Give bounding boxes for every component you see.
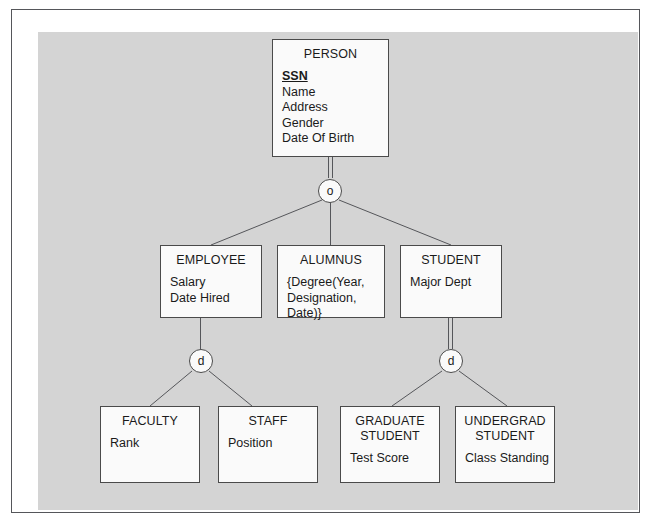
- entity-graduate-student-title: GRADUATE STUDENT: [341, 414, 439, 444]
- specialization-symbol-o: o: [327, 184, 334, 198]
- attribute-degree-line-1: {Degree(Year,: [287, 275, 384, 291]
- entity-alumnus-attributes: {Degree(Year, Designation, Date)}: [278, 275, 384, 322]
- attribute-rank: Rank: [110, 436, 199, 452]
- attribute-salary: Salary: [170, 275, 261, 291]
- entity-student-attributes: Major Dept: [401, 275, 501, 291]
- entity-graduate-student-attributes: Test Score: [341, 451, 439, 467]
- entity-student-title: STUDENT: [401, 253, 501, 268]
- entity-employee-attributes: Salary Date Hired: [161, 275, 261, 306]
- entity-undergrad-student-title: UNDERGRAD STUDENT: [456, 414, 554, 444]
- entity-undergrad-student[interactable]: UNDERGRAD STUDENT Class Standing: [455, 406, 555, 483]
- attribute-gender: Gender: [282, 116, 388, 132]
- entity-student[interactable]: STUDENT Major Dept: [400, 245, 502, 318]
- entity-person-attributes: SSN Name Address Gender Date Of Birth: [273, 69, 388, 147]
- entity-faculty[interactable]: FACULTY Rank: [100, 406, 200, 483]
- edge-spec-to-student: [339, 200, 451, 245]
- entity-alumnus-title: ALUMNUS: [278, 253, 384, 268]
- entity-staff-title: STAFF: [219, 414, 317, 429]
- attribute-degree-line-2: Designation,: [287, 291, 384, 307]
- diagram-page: PERSON SSN Name Address Gender Date Of B…: [0, 0, 652, 525]
- entity-person[interactable]: PERSON SSN Name Address Gender Date Of B…: [272, 39, 389, 157]
- edge-spec-to-employee: [211, 200, 322, 245]
- entity-graduate-student[interactable]: GRADUATE STUDENT Test Score: [340, 406, 440, 483]
- specialization-symbol-d-student: d: [448, 354, 455, 368]
- attribute-class-standing: Class Standing: [465, 451, 554, 467]
- attribute-ssn: SSN: [282, 69, 388, 85]
- attribute-name: Name: [282, 85, 388, 101]
- entity-employee[interactable]: EMPLOYEE Salary Date Hired: [160, 245, 262, 318]
- entity-undergrad-student-attributes: Class Standing: [456, 451, 554, 467]
- entity-alumnus[interactable]: ALUMNUS {Degree(Year, Designation, Date)…: [277, 245, 385, 318]
- entity-person-title: PERSON: [273, 47, 388, 62]
- attribute-date-hired: Date Hired: [170, 291, 261, 307]
- entity-faculty-attributes: Rank: [101, 436, 199, 452]
- er-diagram: PERSON SSN Name Address Gender Date Of B…: [0, 0, 652, 525]
- attribute-major-dept: Major Dept: [410, 275, 501, 291]
- edge-empspec-to-staff: [209, 371, 252, 406]
- entity-staff-attributes: Position: [219, 436, 317, 452]
- specialization-circle-employee-disjoint[interactable]: d: [189, 349, 213, 373]
- attribute-degree-line-3: Date)}: [287, 306, 384, 322]
- attribute-position: Position: [228, 436, 317, 452]
- entity-staff[interactable]: STAFF Position: [218, 406, 318, 483]
- edge-stuspec-to-undergrad: [459, 371, 507, 406]
- attribute-address: Address: [282, 100, 388, 116]
- attribute-date-of-birth: Date Of Birth: [282, 131, 388, 147]
- specialization-circle-student-disjoint[interactable]: d: [439, 349, 463, 373]
- entity-employee-title: EMPLOYEE: [161, 253, 261, 268]
- entity-faculty-title: FACULTY: [101, 414, 199, 429]
- specialization-circle-overlapping[interactable]: o: [318, 179, 342, 203]
- edge-stuspec-to-graduate: [392, 371, 442, 406]
- attribute-test-score: Test Score: [350, 451, 439, 467]
- edge-empspec-to-faculty: [150, 371, 192, 406]
- specialization-symbol-d-employee: d: [198, 354, 205, 368]
